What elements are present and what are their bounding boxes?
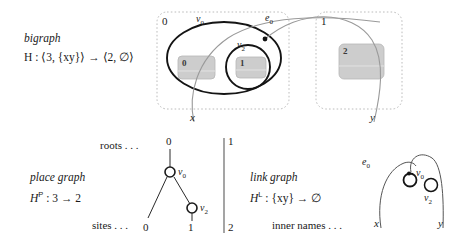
- bigraph-node-v0-label: v0: [196, 14, 204, 27]
- link-graph-name-x: x: [374, 218, 379, 229]
- place-graph-root-1-label: 1: [228, 136, 234, 147]
- place-graph-node-v0-label: v0: [178, 167, 186, 180]
- bigraph-site-1-label: 1: [240, 58, 245, 68]
- place-graph-formula-arrow: →: [58, 192, 75, 204]
- place-graph-site-1-label: 1: [188, 222, 194, 233]
- place-graph-node-v2-sub: 2: [204, 208, 208, 216]
- link-graph-name-y: y: [438, 218, 443, 229]
- bigraph-figure: 0 1 2 bigraph H : ⟨3, {xy}⟩ → ⟨2, ∅⟩ 0 1…: [0, 0, 456, 247]
- bigraph-node-v2-label: v2: [237, 40, 245, 53]
- place-graph-node-v0-sub: 0: [182, 172, 186, 180]
- link-graph-formula-inner: {xy}: [271, 192, 294, 204]
- place-edge-v0-site0: [148, 177, 167, 218]
- bigraph-node-v0-sub: 0: [200, 19, 204, 27]
- place-graph-site-2-label: 2: [228, 222, 234, 233]
- place-graph-site-0-label: 0: [143, 222, 149, 233]
- link-node-v0-shape: [404, 174, 417, 187]
- bigraph-edge-e0-label: e0: [265, 13, 273, 26]
- place-node-v0-shape: [165, 167, 175, 177]
- figure-canvas: 0 1 2: [0, 0, 456, 247]
- place-graph-root-0-label: 0: [166, 136, 172, 147]
- bigraph-site-0-label: 0: [182, 58, 187, 68]
- place-edge-v0-v2: [174, 177, 190, 204]
- bigraph-caption-name: bigraph: [24, 33, 60, 45]
- link-graph-caption-name: link graph: [250, 172, 298, 184]
- bigraph-port-v0: [263, 37, 268, 42]
- bigraph-edge-e0-sub: 0: [269, 18, 273, 26]
- place-graph-caption-formula: HP : 3 → 2: [30, 191, 81, 204]
- link-arc-e0-left: [380, 163, 404, 228]
- bigraph-region-0-label: 0: [162, 16, 168, 27]
- bigraph-name-y: y: [370, 112, 375, 123]
- bigraph-node-v2-sub: 2: [241, 45, 245, 53]
- link-graph-formula-outer: ∅: [311, 192, 321, 204]
- link-graph-node-v0-label: v0: [416, 168, 424, 181]
- link-arc-e0-join: [404, 162, 416, 166]
- link-port-v0: [407, 172, 411, 176]
- link-graph-node-v2-sub: 2: [428, 198, 432, 206]
- bigraph-region-1-label: 1: [321, 16, 327, 27]
- link-graph-edge-e0-label: e0: [362, 157, 370, 170]
- link-graph-caption-formula: HL : {xy} → ∅: [250, 191, 321, 204]
- place-graph-formula-colon: :: [43, 192, 52, 204]
- link-graph-inner-names-label: inner names . . .: [272, 220, 342, 231]
- link-graph-node-v0-sub: 0: [420, 173, 424, 181]
- link-graph-formula-arrow: →: [294, 192, 311, 204]
- place-graph-caption-name: place graph: [30, 172, 85, 184]
- place-graph-sites-label: sites . . .: [92, 220, 128, 231]
- place-graph-formula-outer: 2: [75, 192, 81, 204]
- link-graph-edge-e0-sub: 0: [366, 162, 370, 170]
- place-graph-node-v2-label: v2: [200, 203, 208, 216]
- bigraph-name-x: x: [190, 112, 195, 123]
- place-node-v2-shape: [187, 203, 197, 213]
- bigraph-site-2-label: 2: [343, 46, 348, 56]
- bigraph-caption-formula: H : ⟨3, {xy}⟩ → ⟨2, ∅⟩: [24, 52, 134, 64]
- link-node-v2-shape: [425, 179, 438, 192]
- place-graph-roots-label: roots . . .: [100, 140, 139, 151]
- link-graph-node-v2-label: v2: [424, 193, 432, 206]
